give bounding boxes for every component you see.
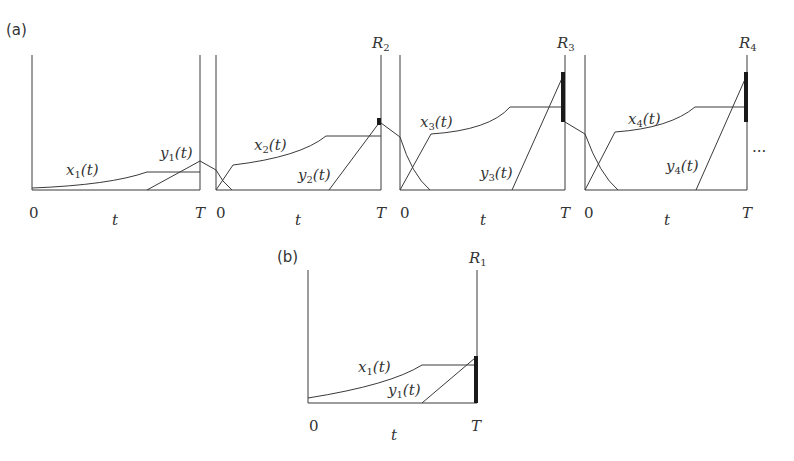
t-axis-label: t [295, 211, 302, 229]
x4-curve [585, 107, 746, 190]
subplot-a3: x3(t) y3(t) R3 0 t T [400, 34, 575, 229]
T-label: T [471, 417, 482, 435]
subplot-a4: x4(t) y4(t) R4 0 t T ... [584, 34, 766, 229]
y1-curve [147, 161, 200, 190]
subplot-a1: x1(t) y1(t) 0 t T [29, 55, 206, 229]
x1-label: x1(t) [358, 358, 391, 377]
origin-label: 0 [584, 204, 594, 222]
origin-label: 0 [216, 204, 226, 222]
t-axis-label: t [664, 211, 671, 229]
origin-label: 0 [400, 204, 410, 222]
x1-label: x1(t) [66, 161, 99, 180]
R4-label: R4 [738, 34, 757, 53]
x2-label: x2(t) [254, 136, 287, 155]
decay-curve [585, 134, 618, 190]
subplot-b: x1(t) y1(t) R1 0 t T [308, 249, 487, 444]
origin-label: 0 [309, 417, 319, 435]
x4-label: x4(t) [628, 110, 661, 129]
panel-a-label: (a) [6, 21, 27, 39]
transfer-line-2 [381, 123, 400, 137]
y2-curve [329, 123, 379, 190]
y1-label: y1(t) [387, 381, 421, 400]
y4-label: y4(t) [665, 157, 699, 176]
T-label: T [560, 204, 571, 222]
transfer-line-3 [565, 122, 585, 134]
t-axis-label: t [391, 426, 398, 444]
R2-label: R2 [371, 34, 390, 53]
y1-label: y1(t) [159, 144, 193, 163]
T-label: T [195, 204, 206, 222]
y3-curve [512, 76, 563, 190]
T-label: T [742, 204, 753, 222]
origin-label: 0 [29, 204, 39, 222]
R3-label: R3 [556, 34, 575, 53]
subplot-a2: x2(t) y2(t) R2 0 t T [216, 34, 390, 229]
y2-label: y2(t) [297, 166, 331, 185]
ellipsis: ... [752, 138, 766, 156]
y4-curve [696, 77, 746, 190]
x3-label: x3(t) [420, 113, 453, 132]
T-label: T [376, 204, 387, 222]
panel-b-label: (b) [277, 248, 298, 266]
transfer-line-1 [200, 161, 216, 170]
t-axis-label: t [480, 211, 487, 229]
y3-label: y3(t) [479, 164, 513, 183]
t-axis-label: t [112, 211, 119, 229]
R1-label: R1 [468, 249, 487, 268]
diagram-canvas: (a) x1(t) y1(t) 0 t T x2(t) y2(t) R2 0 t… [0, 0, 794, 461]
